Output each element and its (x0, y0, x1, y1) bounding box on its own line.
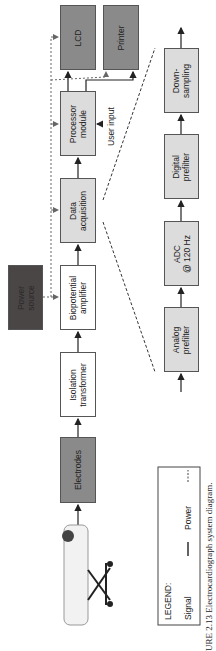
printer-block: Printer (103, 5, 139, 70)
downsampling-block: Down- sampling (164, 48, 199, 113)
power-source-label: Power source (15, 285, 35, 311)
legend-power-label: Power (183, 506, 193, 530)
electrodes-block: Electrodes (60, 437, 96, 503)
biopotential-label: Biopotential amplifier (68, 275, 88, 319)
legend-signal-label: Signal (183, 596, 193, 620)
adc-block: ADC @ 120 Hz (164, 221, 199, 286)
analog-prefilter-block: Analog prefilter (164, 307, 199, 372)
digital-prefilter-label: Digital prefilter (172, 152, 192, 180)
power-source-block: Power source (8, 265, 43, 330)
digital-prefilter-block: Digital prefilter (164, 134, 199, 199)
processor-label: Processor module (68, 104, 88, 142)
downsampling-label: Down- sampling (172, 63, 192, 97)
printer-label: Printer (116, 25, 126, 50)
legend-title: LEGEND: (163, 583, 173, 620)
isolation-label: Isolation transformer (68, 363, 88, 406)
electrodes-label: Electrodes (73, 450, 83, 490)
user-input-label: User input (106, 107, 116, 146)
adc-label: ADC @ 120 Hz (172, 235, 192, 273)
biopotential-amplifier-block: Biopotential amplifier (60, 265, 96, 330)
patient-bed-illustration (62, 525, 113, 625)
lcd-label: LCD (73, 29, 83, 46)
data-acquisition-block: Data acquisition (60, 178, 96, 243)
lcd-block: LCD (60, 5, 96, 70)
figure-caption: URE 2.13 Electrocardiograph system diagr… (204, 483, 214, 651)
analog-prefilter-label: Analog prefilter (172, 325, 192, 353)
isolation-transformer-block: Isolation transformer (60, 352, 96, 417)
processor-block: Processor module (60, 91, 96, 156)
data-acquisition-label: Data acquisition (68, 190, 88, 230)
